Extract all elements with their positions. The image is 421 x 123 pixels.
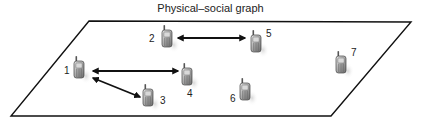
mobile-phone-icon [74,56,92,84]
mobile-phone-icon [240,78,258,106]
node-1: 1 [64,56,92,84]
node-label: 1 [64,65,70,76]
mobile-phone-icon [162,25,180,53]
node-label: 2 [149,33,155,44]
node-6: 6 [230,78,258,106]
node-5: 5 [251,28,272,58]
node-label: 3 [160,95,166,106]
node-label: 6 [230,93,236,104]
physical-social-graph: 1234567 [0,0,421,123]
node-4: 4 [182,63,200,99]
node-label: 7 [351,47,357,58]
mobile-phone-icon [182,63,200,91]
node-2: 2 [149,25,180,53]
node-7: 7 [336,47,357,79]
node-label: 5 [266,28,272,39]
node-label: 4 [187,88,193,99]
mobile-phone-icon [143,84,161,112]
edge-1-3 [93,78,140,97]
node-3: 3 [143,84,166,112]
